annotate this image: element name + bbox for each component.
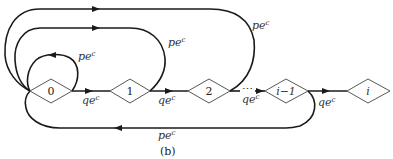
node-i-minus-1: i−1 [265, 79, 308, 103]
label-loop-1-to-0: pec [168, 36, 186, 49]
node-0: 0 [30, 79, 72, 103]
svg-text:0: 0 [48, 85, 55, 98]
arrowhead-icon [322, 88, 330, 94]
arrowhead-icon [92, 25, 100, 31]
arrowhead-icon [48, 52, 56, 58]
arrowhead-icon [114, 125, 122, 131]
label-fwd-1-2: qec [158, 94, 176, 107]
edge-fwd-im1-i [308, 88, 347, 94]
label-fwd-im1-i: qec [318, 96, 336, 109]
svg-text:i−1: i−1 [276, 85, 296, 98]
label-loop-im1-to-0: pec [158, 129, 176, 142]
markov-chain-diagram: ⋯ 0 1 2 i−1 i pec pec pec pec qec qec qe… [0, 0, 393, 159]
label-fwd-0-1: qec [82, 94, 100, 107]
edge-loop-2-to-0 [5, 6, 254, 91]
svg-text:2: 2 [206, 85, 213, 98]
svg-text:1: 1 [127, 85, 134, 98]
label-self-loop-0: pec [78, 50, 96, 63]
label-loop-2-to-0: pec [252, 19, 270, 32]
arrowhead-icon [92, 6, 100, 12]
label-fwd-2-im1: qec [242, 93, 260, 106]
node-2: 2 [188, 79, 230, 103]
node-1: 1 [110, 79, 150, 103]
svg-text:i: i [366, 85, 370, 98]
node-i: i [347, 79, 390, 103]
figure-caption: (b) [160, 145, 176, 158]
